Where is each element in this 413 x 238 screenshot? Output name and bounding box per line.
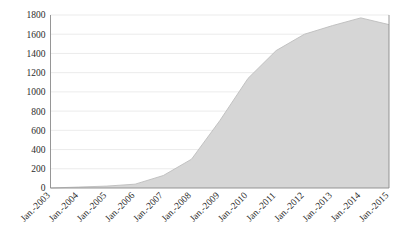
y-axis-tick-label: 800 xyxy=(31,107,46,117)
y-axis-tick-label: 1200 xyxy=(27,68,46,78)
x-axis-tick-label: Jan.-2014 xyxy=(329,190,363,224)
y-axis-tick-label: 1400 xyxy=(27,49,46,59)
x-axis-tick-label: Jan.-2009 xyxy=(188,190,222,224)
x-axis-tick-label: Jan.-2005 xyxy=(75,190,109,224)
x-axis-tick-label: Jan.-2008 xyxy=(160,190,194,224)
chart-canvas: 020040060080010001200140016001800 Jan.-2… xyxy=(0,0,413,238)
y-axis-tick-labels: 020040060080010001200140016001800 xyxy=(27,10,46,193)
y-axis-tick-label: 400 xyxy=(31,145,46,155)
area-series xyxy=(51,18,390,188)
x-axis-tick-label: Jan.-2006 xyxy=(103,190,137,224)
y-axis-tick-label: 1800 xyxy=(27,10,46,20)
x-axis-tick-label: Jan.-2012 xyxy=(272,190,306,224)
x-axis-tick-label: Jan.-2003 xyxy=(19,190,53,224)
x-axis-tick-labels: Jan.-2003Jan.-2004Jan.-2005Jan.-2006Jan.… xyxy=(19,190,391,224)
x-axis-tick-label: Jan.-2010 xyxy=(216,190,250,224)
x-axis-tick-label: Jan.-2011 xyxy=(244,190,277,223)
x-axis-tick-label: Jan.-2007 xyxy=(131,190,165,224)
x-axis-tick-label: Jan.-2004 xyxy=(47,190,81,224)
x-axis-tick-label: Jan.-2013 xyxy=(301,190,335,224)
x-axis-tick-label: Jan.-2015 xyxy=(357,190,391,224)
y-axis-tick-label: 600 xyxy=(31,126,46,136)
y-axis-tick-label: 200 xyxy=(31,164,46,174)
area-fill-path xyxy=(51,18,390,188)
y-axis-tick-label: 1000 xyxy=(27,87,46,97)
area-chart: 020040060080010001200140016001800 Jan.-2… xyxy=(0,0,413,238)
y-axis-tick-label: 1600 xyxy=(27,30,46,40)
